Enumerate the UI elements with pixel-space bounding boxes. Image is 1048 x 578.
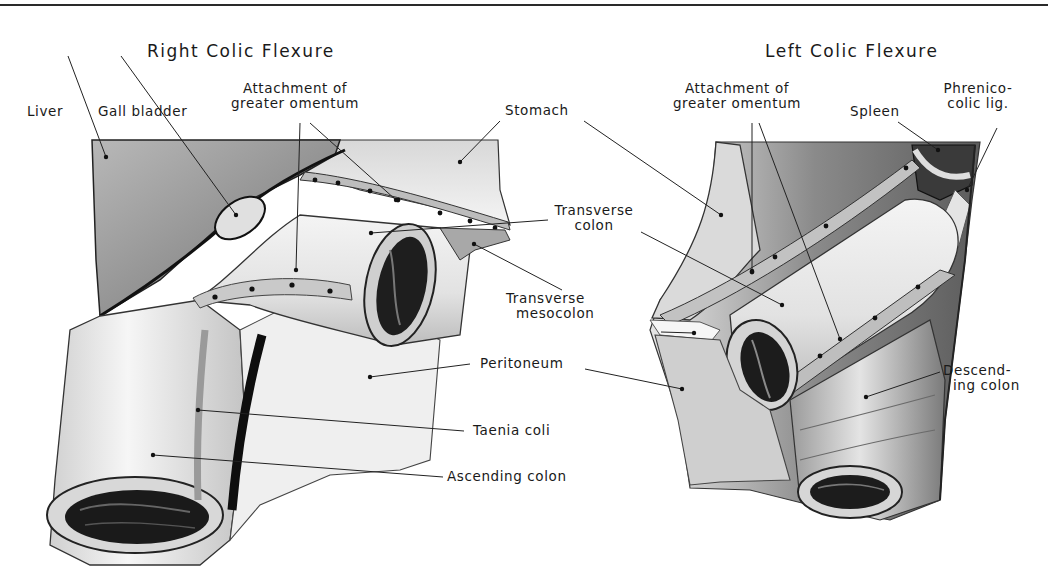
anatomical-illustration <box>0 0 1048 578</box>
label-transverse-colon: Transverse colon <box>542 203 646 233</box>
left-colic-flexure-figure <box>650 142 980 520</box>
label-attachment-line1: Attachment of <box>220 81 370 96</box>
label-phrenicocolic-line2: colic lig. <box>923 96 1033 111</box>
label-phrenicocolic-line1: Phrenico- <box>923 81 1033 96</box>
label-transverse-mesocolon-line1: Transverse <box>506 291 594 306</box>
label-peritoneum: Peritoneum <box>480 356 563 371</box>
label-transverse-colon-line2: colon <box>542 218 646 233</box>
label-transverse-colon-line1: Transverse <box>542 203 646 218</box>
label-liver: Liver <box>27 104 63 119</box>
label-attachment-greater-omentum-left: Attachment of greater omentum <box>662 81 812 111</box>
label-spleen: Spleen <box>850 104 900 119</box>
right-colic-flexure-figure <box>47 140 510 565</box>
label-taenia-coli: Taenia coli <box>473 423 550 438</box>
label-stomach: Stomach <box>505 103 569 118</box>
label-phrenicocolic-ligament: Phrenico- colic lig. <box>923 81 1033 111</box>
label-attachment-greater-omentum-right: Attachment of greater omentum <box>220 81 370 111</box>
label-ascending-colon: Ascending colon <box>447 469 567 484</box>
label-gall-bladder: Gall bladder <box>98 104 187 119</box>
label-attachment-left-line2: greater omentum <box>662 96 812 111</box>
label-transverse-mesocolon: Transverse mesocolon <box>506 291 594 321</box>
label-descending-line2: ing colon <box>943 378 1020 393</box>
label-attachment-left-line1: Attachment of <box>662 81 812 96</box>
label-descending-colon: Descend- ing colon <box>943 363 1020 393</box>
label-transverse-mesocolon-line2: mesocolon <box>506 306 594 321</box>
label-attachment-line2: greater omentum <box>220 96 370 111</box>
label-descending-line1: Descend- <box>943 363 1020 378</box>
